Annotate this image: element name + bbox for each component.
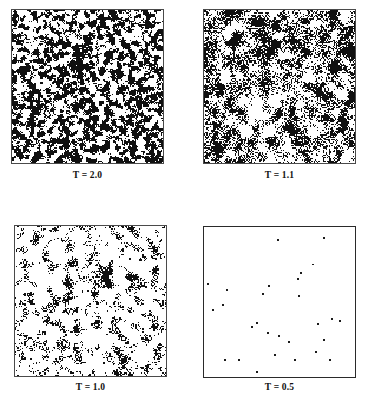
spin-lattice-image: [15, 226, 166, 376]
panel-caption-t-2-0: T = 2.0: [11, 170, 164, 180]
spin-lattice-image: [204, 10, 355, 163]
lattice-frame: [203, 9, 356, 164]
panel-caption-t-0-5: T = 0.5: [203, 382, 356, 392]
ising-figure: T = 2.0T = 1.1T = 1.0T = 0.5: [0, 0, 366, 403]
spin-lattice-image: [12, 10, 163, 163]
panel-caption-t-1-0: T = 1.0: [14, 382, 167, 392]
panel-t-1-1: [203, 9, 356, 164]
lattice-frame: [14, 225, 167, 377]
panel-t-0-5: [203, 226, 356, 378]
lattice-frame: [11, 9, 164, 164]
lattice-frame: [203, 226, 356, 378]
panel-caption-t-1-1: T = 1.1: [203, 170, 356, 180]
panel-t-1-0: [14, 225, 167, 377]
panel-t-2-0: [11, 9, 164, 164]
spin-lattice-image: [204, 227, 355, 377]
